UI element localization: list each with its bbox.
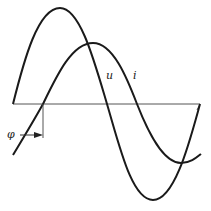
label-i: i — [133, 70, 137, 81]
waveform-graphic — [0, 0, 211, 211]
label-phi: φ — [7, 129, 15, 140]
label-u: u — [106, 70, 113, 81]
phase-diagram: u i φ — [0, 0, 211, 211]
phase-arrow-head — [34, 132, 43, 138]
